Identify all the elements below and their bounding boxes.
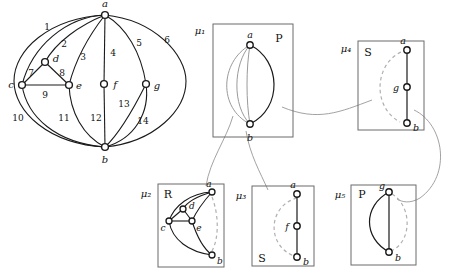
- mu2-vertex-label-d: d: [189, 201, 195, 211]
- graph-vertex-a: [102, 12, 109, 19]
- mu3-vertex-label-b: b: [303, 256, 309, 267]
- mu2-vertex-a: [209, 189, 215, 195]
- graph-edge-label-14: 14: [137, 116, 149, 126]
- mu2-edge-e-b: [192, 221, 212, 255]
- graph-edge-label-11: 11: [58, 113, 69, 123]
- graph-edge-label-4: 4: [110, 48, 116, 58]
- graph-edge-3: [69, 15, 105, 85]
- mu4-vertex-label-b: b: [413, 122, 419, 133]
- mu3-vertex-label-a: a: [290, 179, 296, 190]
- mu5-dashed-virtual-edge: [392, 194, 407, 250]
- mu4-vertex-label-a: a: [400, 35, 406, 46]
- mu2-vertex-label-b: b: [217, 256, 223, 266]
- figure-canvas: a b c d e f g 1 2 3 4 5 6 7 8 9 10 11 12…: [0, 0, 453, 276]
- spqr-node-mu4[interactable]: μ₄ S a g b: [341, 35, 424, 133]
- graph-vertex-b: [102, 144, 109, 151]
- graph-edge-label-10: 10: [12, 113, 24, 123]
- graph-edge-label-7: 7: [28, 68, 34, 78]
- mu1-virtual-edge-3: [247, 45, 250, 124]
- graph-vertex-label-d: d: [53, 53, 59, 64]
- spqr-node-mu1-label: μ₁: [195, 25, 206, 36]
- graph-edge-label-5: 5: [136, 38, 142, 48]
- mu1-vertex-b: [247, 121, 253, 127]
- spqr-node-mu4-type: S: [364, 46, 372, 59]
- graph-edge-12: [104, 84, 105, 147]
- graph-vertex-g: [143, 81, 150, 88]
- mu1-vertex-a: [247, 42, 253, 48]
- spqr-node-mu5[interactable]: μ₅ P g b: [335, 180, 416, 265]
- spqr-node-mu2-label: μ₂: [141, 188, 152, 199]
- graph-edge-4: [104, 15, 105, 84]
- mu4-vertex-label-g: g: [393, 82, 399, 93]
- mu1-real-edge-6: [250, 45, 274, 124]
- mu2-edge-c-b: [169, 221, 212, 255]
- mu2-vertex-label-c: c: [160, 223, 165, 233]
- spqr-node-mu2[interactable]: μ₂ R a d c e b: [141, 179, 224, 267]
- spqr-node-mu1-type: P: [275, 32, 283, 45]
- spqr-node-mu2-type: R: [164, 188, 173, 201]
- mu2-vertex-e: [189, 218, 195, 224]
- graph-vertex-e: [66, 82, 73, 89]
- spqr-node-mu5-label: μ₅: [335, 189, 346, 200]
- graph-edge-label-1: 1: [44, 22, 50, 32]
- graph-edge-label-8: 8: [59, 68, 65, 78]
- spqr-node-mu3[interactable]: μ₃ S a f b: [236, 179, 314, 267]
- graph-edge-8: [45, 62, 69, 85]
- spqr-node-mu1[interactable]: μ₁ P a b: [195, 24, 293, 143]
- graph-edge-label-2: 2: [61, 39, 67, 49]
- mu3-vertex-a: [294, 191, 300, 197]
- graph-vertex-label-a: a: [102, 0, 108, 9]
- graph-edge-label-3: 3: [80, 52, 86, 62]
- graph-vertex-label-f: f: [112, 79, 119, 90]
- mu5-vertex-g: [386, 189, 392, 195]
- graph-vertex-label-c: c: [8, 79, 14, 90]
- mu2-vertex-b: [209, 252, 215, 258]
- mu3-vertex-label-f: f: [284, 221, 290, 232]
- graph-vertex-c: [19, 82, 26, 89]
- mu3-vertex-f: [294, 223, 300, 229]
- mu3-vertex-b: [294, 254, 300, 260]
- mu2-edge-a-e: [192, 192, 212, 221]
- tree-connectors: [206, 100, 441, 202]
- graph-vertex-label-e: e: [76, 80, 82, 91]
- spqr-node-mu3-type: S: [258, 252, 266, 265]
- mu5-vertex-label-g: g: [379, 180, 385, 191]
- mu4-vertex-a: [404, 47, 410, 53]
- graph-vertex-d: [42, 59, 49, 66]
- graph-vertex-label-g: g: [154, 80, 160, 91]
- graph-edge-label-12: 12: [90, 113, 101, 123]
- original-graph: a b c d e f g 1 2 3 4 5 6 7 8 9 10 11 12…: [8, 0, 186, 165]
- mu4-vertex-g: [404, 84, 410, 90]
- spqr-node-mu4-label: μ₄: [341, 43, 352, 54]
- spqr-figure: a b c d e f g 1 2 3 4 5 6 7 8 9 10 11 12…: [0, 0, 453, 276]
- mu2-vertex-c: [166, 218, 172, 224]
- graph-edge-label-13: 13: [118, 99, 130, 109]
- mu2-dashed-virtual-edge: [212, 197, 217, 251]
- mu4-vertex-b: [404, 120, 410, 126]
- graph-vertex-label-b: b: [102, 154, 108, 165]
- mu5-vertex-label-b: b: [395, 252, 401, 263]
- graph-vertex-f: [101, 81, 108, 88]
- spqr-node-mu3-label: μ₃: [236, 190, 247, 201]
- mu5-edge-13: [370, 192, 390, 252]
- graph-edge-label-6: 6: [164, 35, 170, 45]
- spqr-node-mu5-type: P: [358, 188, 366, 201]
- mu2-vertex-d: [180, 206, 186, 212]
- mu1-vertex-label-a: a: [247, 29, 253, 40]
- mu5-vertex-b: [386, 249, 392, 255]
- mu2-vertex-label-a: a: [206, 179, 211, 189]
- graph-edge-label-9: 9: [42, 90, 48, 100]
- mu1-vertex-label-b: b: [247, 132, 253, 143]
- mu2-vertex-label-e: e: [196, 223, 201, 233]
- connector-mu1-mu2: [206, 116, 233, 186]
